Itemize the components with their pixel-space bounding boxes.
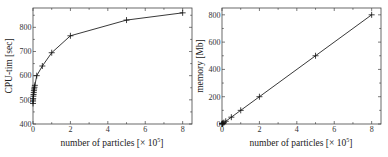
data-line <box>222 15 372 124</box>
x-ticks: 02468 <box>31 8 185 134</box>
x-tick-label: 6 <box>332 125 336 134</box>
x-tick-label: 4 <box>106 125 110 134</box>
x-tick-label: 0 <box>31 125 35 134</box>
y-tick-label: 400 <box>20 120 32 129</box>
x-tick-label: 2 <box>257 125 261 134</box>
y-tick-label: 600 <box>209 38 221 47</box>
memory-chart: 02468 0200400600800 memory [Mb] number o… <box>195 8 381 148</box>
y-tick-label: 600 <box>20 71 32 80</box>
plot-frame <box>33 8 192 124</box>
data-markers <box>30 10 186 107</box>
y-tick-label: 700 <box>20 47 32 56</box>
x-tick-label: 8 <box>370 125 374 134</box>
y-axis-label: memory [Mb] <box>195 39 205 93</box>
cpu-time-chart: 02468 400500600700800 CPU-tim [sec] numb… <box>4 8 192 148</box>
x-tick-label: 4 <box>295 125 299 134</box>
x-tick-label: 8 <box>181 125 185 134</box>
y-tick-label: 200 <box>209 93 221 102</box>
x-tick-label: 6 <box>143 125 147 134</box>
y-tick-label: 0 <box>217 120 221 129</box>
y-ticks: 400500600700800 <box>20 15 193 129</box>
y-tick-label: 500 <box>20 96 32 105</box>
y-axis-label: CPU-tim [sec] <box>4 38 14 93</box>
x-ticks: 02468 <box>220 8 374 134</box>
x-axis-label: number of particles [× 105] <box>250 137 353 148</box>
x-axis-label: number of particles [× 105] <box>61 137 164 148</box>
y-ticks: 0200400600800 <box>209 11 382 129</box>
y-tick-label: 400 <box>209 65 221 74</box>
data-line <box>33 13 183 104</box>
figure: 02468 400500600700800 CPU-tim [sec] numb… <box>0 0 388 157</box>
x-tick-label: 2 <box>68 125 72 134</box>
y-tick-label: 800 <box>209 11 221 20</box>
y-tick-label: 800 <box>20 23 32 32</box>
